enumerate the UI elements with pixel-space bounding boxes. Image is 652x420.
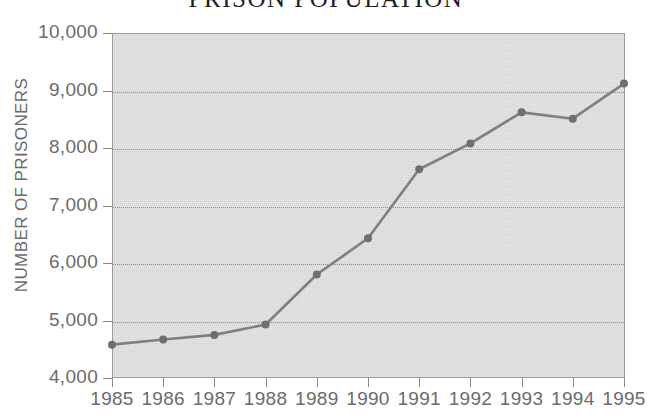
y-tick-label-10000: 10,000: [38, 21, 98, 43]
x-tick-mark-1986: [163, 378, 164, 387]
gridline-7000: [113, 207, 624, 208]
chart-figure: PRISON POPULATION NUMBER OF PRISONERS 4,…: [0, 0, 652, 420]
x-tick-mark-1991: [419, 378, 420, 387]
x-tick-mark-1995: [624, 378, 625, 387]
y-tick-mark-5000: [103, 321, 112, 322]
gridline-8000: [113, 149, 624, 150]
y-tick-mark-8000: [103, 148, 112, 149]
y-tick-label-6000: 6,000: [49, 251, 98, 273]
x-tick-mark-1989: [317, 378, 318, 387]
y-tick-label-7000: 7,000: [49, 194, 98, 216]
gridline-5000: [113, 322, 624, 323]
x-tick-mark-1992: [470, 378, 471, 387]
x-tick-mark-1985: [112, 378, 113, 387]
y-axis-title: NUMBER OF PRISONERS: [12, 35, 32, 335]
x-tick-mark-1990: [368, 378, 369, 387]
x-tick-mark-1994: [573, 378, 574, 387]
gridline-6000: [113, 264, 624, 265]
y-tick-label-5000: 5,000: [49, 309, 98, 331]
y-tick-mark-6000: [103, 263, 112, 264]
y-tick-mark-7000: [103, 206, 112, 207]
x-tick-mark-1987: [214, 378, 215, 387]
y-tick-label-9000: 9,000: [49, 79, 98, 101]
y-tick-mark-4000: [103, 378, 112, 379]
gridline-9000: [113, 92, 624, 93]
y-tick-mark-9000: [103, 91, 112, 92]
chart-title: PRISON POPULATION: [0, 0, 652, 14]
x-tick-mark-1993: [522, 378, 523, 387]
y-tick-label-4000: 4,000: [49, 366, 98, 388]
y-tick-mark-10000: [103, 33, 112, 34]
y-tick-label-8000: 8,000: [49, 136, 98, 158]
x-tick-label-1995: 1995: [594, 388, 652, 410]
plot-area: [112, 33, 625, 378]
plot-texture: [113, 34, 624, 377]
x-tick-mark-1988: [266, 378, 267, 387]
